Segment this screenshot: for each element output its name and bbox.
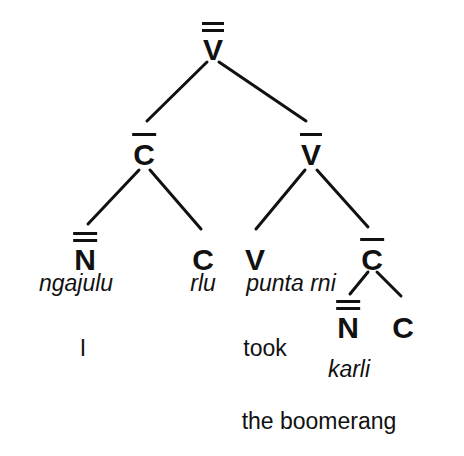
tree-node-c-bar-object: C — [361, 245, 383, 275]
node-label: V — [301, 138, 321, 171]
overbar-icon — [132, 133, 156, 136]
overbar-icon — [360, 238, 384, 241]
edge-vbar-cbar-right — [317, 170, 368, 227]
edge-root-vbar — [219, 62, 306, 121]
overbar-lower-icon — [202, 29, 224, 32]
overbar-lower-icon — [336, 307, 360, 310]
node-label: N — [337, 311, 359, 344]
tree-branch-lines — [0, 0, 464, 456]
overbar-lower-icon — [73, 239, 97, 242]
word-punta-rni: punta rni — [246, 272, 336, 295]
node-label: C — [133, 138, 155, 171]
edge-root-cbar — [147, 62, 207, 121]
syntax-tree-diagram: V C V N C V C — [0, 0, 464, 456]
tree-node-v-bar: V — [301, 140, 321, 170]
edge-vbar-v-leaf — [256, 170, 305, 229]
word-karli: karli — [328, 358, 370, 381]
tree-node-c-bar: C — [133, 140, 155, 170]
edge-cbar-c-leaf-left — [150, 170, 201, 229]
overbar-upper-icon — [336, 300, 360, 303]
node-label: C — [361, 243, 383, 276]
tree-node-c-leaf-right: C — [392, 313, 414, 343]
tree-node-n-double-bar-object: N — [337, 313, 359, 343]
overbar-icon — [300, 133, 322, 136]
gloss-took: took — [243, 337, 286, 360]
node-label: C — [392, 311, 414, 344]
word-ngajulu: ngajulu — [39, 272, 113, 295]
word-rlu: rlu — [190, 272, 216, 295]
overbar-upper-icon — [202, 22, 224, 25]
overbar-upper-icon — [73, 232, 97, 235]
gloss-i: I — [80, 337, 86, 360]
edge-cbar-nbarbar — [88, 170, 139, 224]
gloss-the-boomerang: the boomerang — [242, 410, 397, 433]
node-label: V — [203, 33, 223, 66]
tree-node-root-v-double-bar: V — [203, 35, 223, 65]
